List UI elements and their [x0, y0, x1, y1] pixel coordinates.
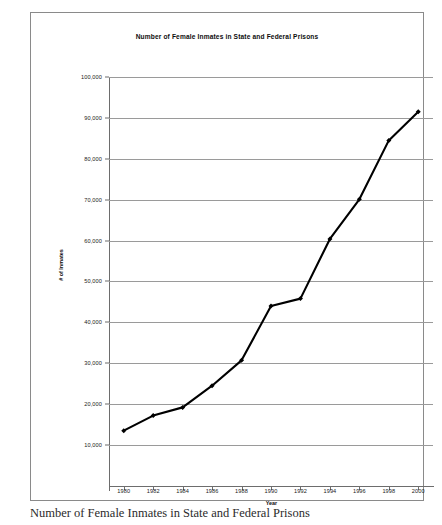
figure-caption: Number of Female Inmates in State and Fe… [30, 506, 430, 521]
x-tick-label: 1994 [323, 488, 336, 494]
y-tick-label: 70,000 [84, 197, 109, 203]
figure-frame: Number of Female Inmates in State and Fe… [30, 12, 424, 501]
x-tick-label: 1984 [176, 488, 189, 494]
y-tick-label: 30,000 [84, 360, 109, 366]
plot-area: 10,00020,00030,00040,00050,00060,00070,0… [109, 77, 433, 445]
x-tick-label: 1988 [235, 488, 248, 494]
y-axis-title: # of Inmates [58, 249, 64, 280]
series-line [124, 112, 419, 431]
y-tick-label: 50,000 [84, 278, 109, 284]
y-tick-label: 100,000 [81, 74, 109, 80]
inmates-line-series [109, 77, 433, 445]
x-tick-label: 2000 [412, 488, 425, 494]
y-tick-label: 10,000 [84, 442, 109, 448]
chart-page: Number of Female Inmates in State and Fe… [0, 0, 442, 525]
y-tick-label: 60,000 [84, 238, 109, 244]
x-tick-label: 1980 [117, 488, 130, 494]
y-tick-label: 90,000 [84, 115, 109, 121]
y-tick-label: 40,000 [84, 319, 109, 325]
y-gridline [109, 445, 433, 446]
x-tick-label: 1992 [294, 488, 307, 494]
x-tick-label: 1982 [147, 488, 160, 494]
y-tick-label: 80,000 [84, 156, 109, 162]
x-tick-label: 1996 [353, 488, 366, 494]
x-tick-label: 1986 [206, 488, 219, 494]
x-tick-label: 1990 [265, 488, 278, 494]
y-tick-label: 20,000 [84, 401, 109, 407]
chart-title: Number of Female Inmates in State and Fe… [31, 33, 423, 40]
x-tick-label: 1998 [382, 488, 395, 494]
